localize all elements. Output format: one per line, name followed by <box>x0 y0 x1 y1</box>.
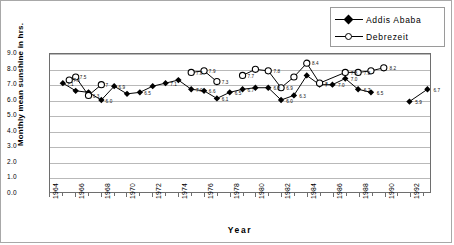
y-axis-tick-label: 2.0 <box>0 158 17 165</box>
x-axis-tick <box>230 193 231 197</box>
legend-item-debrezeit: Debrezeit <box>331 28 444 45</box>
y-axis-tick-label: 5.0 <box>0 111 17 118</box>
data-point-label: 7 <box>325 82 328 87</box>
x-axis-tick-label: 1982 <box>284 183 291 199</box>
x-axis-tick <box>126 193 127 197</box>
data-point-label: 6.3 <box>299 94 306 99</box>
x-axis-tick <box>165 193 166 196</box>
x-axis-tick-label: 1986 <box>336 183 343 199</box>
plot-area: 7.16.06.96.57.17.06.66.16.56.76.86.06.37… <box>49 53 431 193</box>
x-axis-tick <box>88 193 89 196</box>
data-point-label: 5.9 <box>415 100 422 105</box>
x-axis-tick <box>255 193 256 197</box>
x-axis-tick-label: 1988 <box>362 183 369 199</box>
x-axis-tick <box>268 193 269 196</box>
data-point-label: 6.5 <box>235 91 242 96</box>
x-axis-tick <box>101 193 102 197</box>
x-axis-tick <box>307 193 308 197</box>
y-axis-tick-label: 3.0 <box>0 142 17 149</box>
x-axis-tick <box>281 193 282 197</box>
x-axis-tick <box>410 193 411 197</box>
x-axis-tick-label: 1970 <box>129 183 136 199</box>
x-axis-tick <box>243 193 244 196</box>
data-point-label: 7 <box>106 83 109 88</box>
x-axis-tick-label: 1966 <box>78 183 85 199</box>
open-circle-marker-icon <box>335 31 363 42</box>
x-axis-tick-label: 1976 <box>207 183 214 199</box>
x-axis-tick <box>333 193 334 197</box>
x-axis-tick-label: 1972 <box>155 183 162 199</box>
x-axis-tick <box>49 193 50 197</box>
x-axis-tick-label: 1990 <box>388 183 395 199</box>
data-point-label: 6.3 <box>93 94 100 99</box>
y-axis-tick-label: 6.0 <box>0 96 17 103</box>
x-axis-tick <box>397 193 398 196</box>
legend-item-addis-ababa: Addis Ababa <box>331 11 444 28</box>
data-point-label: 7.8 <box>364 71 371 76</box>
data-point-label: 6.1 <box>222 97 229 102</box>
chart-legend: Addis Ababa Debrezeit <box>330 7 445 47</box>
x-axis-tick <box>294 193 295 196</box>
x-axis-tick <box>152 193 153 197</box>
legend-label-debrezeit: Debrezeit <box>363 32 409 42</box>
x-axis-tick <box>385 193 386 197</box>
data-point-label: 8.4 <box>312 61 319 66</box>
x-axis-tick <box>217 193 218 196</box>
data-point-label: 6.9 <box>286 86 293 91</box>
x-axis-tick <box>139 193 140 196</box>
data-labels: 7.16.06.96.57.17.06.66.16.56.76.86.06.37… <box>50 54 430 192</box>
x-axis-tick <box>372 193 373 196</box>
y-axis-tick-label: 9.0 <box>0 49 17 56</box>
x-axis-title: Year <box>49 225 431 235</box>
data-point-label: 8.2 <box>390 66 397 71</box>
data-point-label: 7.0 <box>338 83 345 88</box>
x-axis-tick <box>423 193 424 196</box>
chart-figure: Addis Ababa Debrezeit Monthly mean sunsh… <box>0 0 452 243</box>
x-axis-tick-label: 1964 <box>52 183 59 199</box>
x-axis-tick <box>320 193 321 196</box>
x-axis-tick <box>114 193 115 196</box>
x-axis-tick-label: 1992 <box>413 183 420 199</box>
data-point-label: 7.8 <box>351 71 358 76</box>
data-point-label: 7.8 <box>273 69 280 74</box>
data-point-label: 7.0 <box>196 88 203 93</box>
data-point-label: 7.1 <box>170 82 177 87</box>
data-point-label: 7.8 <box>196 71 203 76</box>
x-axis-tick-label: 1978 <box>233 183 240 199</box>
y-axis-tick-label: 7.0 <box>0 80 17 87</box>
y-axis-tick-label: 4.0 <box>0 127 17 134</box>
data-point-label: 7.0 <box>351 77 358 82</box>
x-axis-tick <box>62 193 63 196</box>
data-point-label: 6.8 <box>273 86 280 91</box>
filled-diamond-marker-icon <box>335 14 363 25</box>
x-axis-tick <box>75 193 76 197</box>
legend-label-addis-ababa: Addis Ababa <box>363 15 421 25</box>
data-point-label: 7.3 <box>222 80 229 85</box>
data-point-label: 7.9 <box>209 69 216 74</box>
data-point-label: 7.7 <box>248 74 255 79</box>
data-point-label: 6.9 <box>119 85 126 90</box>
y-axis-tick-label: 1.0 <box>0 173 17 180</box>
y-axis-tick-label: 8.0 <box>0 65 17 72</box>
data-point-label: 6.0 <box>286 99 293 104</box>
data-point-label: 6.5 <box>377 91 384 96</box>
x-axis-tick <box>359 193 360 197</box>
data-point-label: 6.0 <box>106 99 113 104</box>
x-axis-tick-label: 1968 <box>104 183 111 199</box>
x-axis-tick-label: 1974 <box>181 183 188 199</box>
data-point-label: 6.5 <box>144 91 151 96</box>
x-axis-tick <box>178 193 179 197</box>
y-axis-tick-label: 0.0 <box>0 189 17 196</box>
data-point-label: 6.7 <box>248 88 255 93</box>
data-point-label: 6.7 <box>433 88 440 93</box>
x-axis-tick-label: 1984 <box>310 183 317 199</box>
x-axis-tick <box>204 193 205 197</box>
x-axis-tick-label: 1980 <box>258 183 265 199</box>
data-point-label: 6.6 <box>209 89 216 94</box>
x-axis-tick <box>346 193 347 196</box>
data-point-label: 7.5 <box>80 75 87 80</box>
x-axis-tick <box>191 193 192 196</box>
data-point-label: 6.7 <box>364 88 371 93</box>
